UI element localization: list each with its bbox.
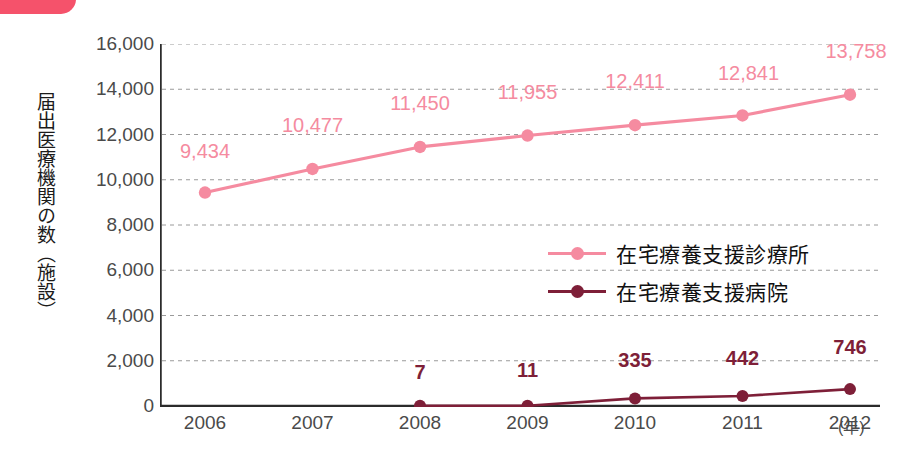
y-tick-label: 14,000 (64, 78, 154, 100)
series-line-clinic (205, 95, 850, 193)
data-point[interactable] (522, 400, 534, 407)
data-label: 11,955 (498, 80, 558, 103)
data-point[interactable] (199, 186, 211, 198)
data-label: 442 (726, 346, 759, 369)
corner-tab-decoration (0, 0, 76, 14)
data-point[interactable] (629, 392, 641, 404)
data-label: 335 (618, 349, 651, 372)
data-point[interactable] (414, 141, 426, 153)
legend-item-hospital[interactable]: 在宅療養支援病院 (548, 272, 878, 310)
data-label: 12,841 (718, 62, 779, 85)
legend-marker-hospital (548, 284, 606, 298)
x-tick-labels: 2006200720082009201020112012 (160, 412, 880, 446)
x-tick-label: 2011 (722, 412, 763, 434)
data-label: 11,450 (390, 91, 450, 114)
data-label: 7 (414, 360, 425, 383)
x-tick-label: 2007 (291, 412, 333, 434)
y-axis-title: 届出医療機関の数（施設） (24, 92, 54, 354)
chart-page: 届出医療機関の数（施設） 16,00014,00012,00010,0008,0… (0, 0, 899, 471)
data-point[interactable] (844, 89, 856, 101)
data-point[interactable] (844, 383, 856, 395)
x-tick-label: 2009 (506, 412, 548, 434)
data-point[interactable] (306, 163, 318, 175)
y-tick-labels: 16,00014,00012,00010,0008,0006,0004,0002… (58, 44, 154, 407)
data-label: 10,477 (282, 113, 343, 136)
y-tick-label: 4,000 (64, 305, 154, 327)
y-tick-label: 6,000 (64, 259, 154, 281)
data-label: 12,411 (605, 70, 665, 93)
legend-marker-clinic (548, 246, 606, 260)
x-tick-label: 2010 (614, 412, 656, 434)
data-label: 9,434 (180, 139, 230, 162)
y-tick-label: 12,000 (64, 124, 154, 146)
y-tick-label: 16,000 (64, 33, 154, 55)
y-tick-label: 8,000 (64, 214, 154, 236)
data-point[interactable] (521, 129, 533, 141)
data-point[interactable] (737, 390, 749, 402)
data-point[interactable] (736, 109, 748, 121)
data-point[interactable] (629, 119, 641, 131)
y-tick-label: 2,000 (64, 350, 154, 372)
chart-legend: 在宅療養支援診療所 在宅療養支援病院 (548, 234, 878, 310)
legend-label-hospital: 在宅療養支援病院 (616, 276, 788, 306)
legend-label-clinic: 在宅療養支援診療所 (616, 238, 810, 268)
x-tick-label: 2008 (399, 412, 441, 434)
data-label: 746 (833, 336, 866, 359)
data-label: 13,758 (825, 39, 886, 62)
data-label: 11 (517, 358, 538, 381)
x-axis-unit: (年) (838, 414, 865, 438)
y-tick-label: 0 (64, 395, 154, 417)
legend-item-clinic[interactable]: 在宅療養支援診療所 (548, 234, 878, 272)
y-tick-label: 10,000 (64, 169, 154, 191)
x-tick-label: 2006 (184, 412, 226, 434)
data-point[interactable] (414, 400, 426, 407)
